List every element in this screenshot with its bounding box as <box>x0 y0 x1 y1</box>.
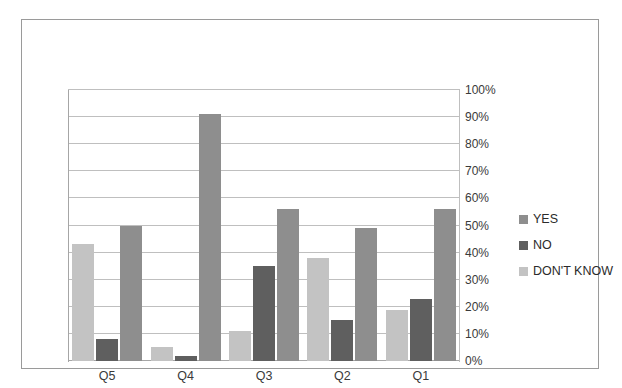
y-tick-label: 90% <box>465 111 489 123</box>
legend-label: NO <box>533 238 552 252</box>
y-tick-label: 0% <box>465 355 482 367</box>
legend-item-don-t-know[interactable]: DON'T KNOW <box>519 258 622 284</box>
y-tick-label: 10% <box>465 328 489 340</box>
x-axis-tick-labels: Q5Q4Q3Q2Q1 <box>68 369 460 383</box>
bar-group-Q5 <box>68 90 146 361</box>
y-axis-tick-labels: 0%10%20%30%40%50%60%70%80%90%100% <box>465 20 515 368</box>
x-tick-label-Q4: Q4 <box>146 369 224 383</box>
bar-Q5-yes[interactable] <box>120 226 142 362</box>
x-tick-label-Q1: Q1 <box>382 369 460 383</box>
x-tick-label-Q2: Q2 <box>303 369 381 383</box>
bar-Q2-don-t-know[interactable] <box>307 258 329 361</box>
bar-groups-layer <box>68 90 460 361</box>
y-tick-label: 70% <box>465 165 489 177</box>
y-axis-line <box>68 90 69 362</box>
bar-group-Q2 <box>303 90 381 361</box>
legend-swatch-icon <box>519 241 528 250</box>
y-tick-label: 30% <box>465 274 489 286</box>
bar-Q3-yes[interactable] <box>277 209 299 361</box>
x-tick-label-Q3: Q3 <box>225 369 303 383</box>
y-tick-label: 80% <box>465 138 489 150</box>
y-tick-label: 20% <box>465 301 489 313</box>
bar-group-Q4 <box>146 90 224 361</box>
y-tick-label: 40% <box>465 247 489 259</box>
plot-right-edge-line <box>459 90 460 362</box>
chart-frame: 0%10%20%30%40%50%60%70%80%90%100% Q5Q4Q3… <box>21 19 599 369</box>
legend-swatch-icon <box>519 215 528 224</box>
bar-Q5-no[interactable] <box>96 339 118 361</box>
bar-Q4-no[interactable] <box>175 356 197 361</box>
y-tick-label: 50% <box>465 220 489 232</box>
legend-item-no[interactable]: NO <box>519 232 622 258</box>
legend-item-yes[interactable]: YES <box>519 206 622 232</box>
bar-Q2-yes[interactable] <box>355 228 377 361</box>
bar-group-Q1 <box>382 90 460 361</box>
bar-Q5-don-t-know[interactable] <box>72 244 94 361</box>
bar-Q4-don-t-know[interactable] <box>151 347 173 361</box>
plot-area <box>68 90 460 361</box>
legend-label: DON'T KNOW <box>533 264 613 278</box>
bar-Q3-don-t-know[interactable] <box>229 331 251 361</box>
bar-Q1-yes[interactable] <box>434 209 456 361</box>
bar-Q3-no[interactable] <box>253 266 275 361</box>
chart-legend: YESNODON'T KNOW <box>519 206 622 284</box>
bar-Q4-yes[interactable] <box>199 114 221 361</box>
x-tick-label-Q5: Q5 <box>68 369 146 383</box>
bar-Q1-no[interactable] <box>410 299 432 361</box>
legend-swatch-icon <box>519 267 528 276</box>
y-tick-label: 100% <box>465 84 496 96</box>
legend-label: YES <box>533 212 558 226</box>
cropped-header-strip <box>0 0 622 14</box>
bar-Q2-no[interactable] <box>331 320 353 361</box>
y-tick-label: 60% <box>465 192 489 204</box>
bar-group-Q3 <box>225 90 303 361</box>
bar-Q1-don-t-know[interactable] <box>386 310 408 361</box>
